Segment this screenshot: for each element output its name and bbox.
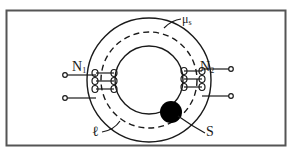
defect-spot xyxy=(160,101,182,123)
frame-border xyxy=(7,11,286,146)
core-outer-edge xyxy=(87,18,211,142)
label-n1-sub: 1 xyxy=(82,66,86,75)
label-n2-sub: 2 xyxy=(210,66,214,75)
label-n1: N1 xyxy=(72,60,86,75)
winding-n1 xyxy=(63,70,117,101)
terminal-n2-top xyxy=(229,67,234,72)
terminal-n1-top xyxy=(63,73,68,78)
terminal-n2-bottom xyxy=(229,94,234,99)
terminal-n1-bottom xyxy=(63,96,68,101)
label-mu-sub: s xyxy=(188,18,191,27)
label-s: S xyxy=(206,125,214,139)
label-ell: ℓ xyxy=(92,125,99,139)
leader-s xyxy=(178,116,205,133)
label-n1-base: N xyxy=(72,59,82,74)
label-n2-base: N xyxy=(200,59,210,74)
toroid-diagram xyxy=(0,0,298,159)
label-mu-s: μs xyxy=(182,13,192,27)
label-n2: N2 xyxy=(200,60,214,75)
